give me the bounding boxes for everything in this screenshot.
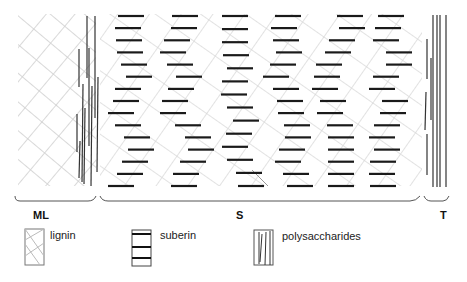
- brace-s: [100, 196, 420, 201]
- legend-swatch-polysaccharides: [254, 230, 273, 265]
- legend-label-lignin: lignin: [50, 229, 76, 241]
- legend-swatch-suberin: [132, 230, 151, 266]
- legend-swatch-lignin: [25, 229, 44, 265]
- polysaccharides-t: [425, 15, 446, 187]
- region-braces: [15, 196, 449, 201]
- region-label-s: S: [236, 209, 243, 221]
- region-label-ml: ML: [33, 209, 49, 221]
- brace-t: [424, 196, 449, 201]
- brace-ml: [15, 196, 96, 201]
- legend-label-suberin: suberin: [160, 229, 196, 241]
- region-label-t: T: [440, 209, 447, 221]
- legend-label-polysaccharides: polysaccharides: [282, 230, 361, 242]
